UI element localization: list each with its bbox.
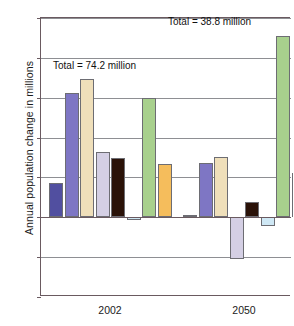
- y-tick-mark: [37, 98, 41, 99]
- total-label-2050: Total = 38.8 million: [168, 16, 251, 27]
- gridline: [41, 18, 291, 19]
- bar-2002-series-7: [142, 98, 156, 218]
- y-axis-title: Annual population change in millions: [23, 23, 35, 273]
- gridline: [41, 58, 291, 59]
- gridline: [41, 257, 291, 258]
- bar-2002-series-8: [158, 164, 172, 217]
- total-label-2002: Total = 74.2 million: [53, 60, 136, 71]
- bar-2002-series-2: [65, 93, 79, 217]
- bar-2050-series-5: [245, 202, 259, 217]
- y-tick-mark: [37, 138, 41, 139]
- bar-2002-series-1: [49, 183, 63, 217]
- y-tick-mark: [37, 177, 41, 178]
- gridline: [41, 98, 291, 99]
- y-tick-mark: [37, 58, 41, 59]
- bar-2050-series-7: [276, 36, 290, 217]
- bar-2050-series-6: [261, 217, 275, 226]
- gridline: [41, 138, 291, 139]
- y-tick-mark: [37, 257, 41, 258]
- bar-2050-series-2: [199, 163, 213, 217]
- x-tick-label-2050: 2050: [214, 304, 274, 316]
- bar-chart: Annual population change in millions 252…: [0, 0, 293, 326]
- bar-2050-series-3: [214, 157, 228, 218]
- bar-2002-series-4: [96, 152, 110, 217]
- bar-2050-series-8: [292, 173, 294, 218]
- bar-2050-series-4: [230, 217, 244, 258]
- plot-area: 2520151050-5-10: [40, 17, 290, 296]
- bar-2002-series-5: [111, 158, 125, 218]
- y-tick-mark: [37, 18, 41, 19]
- zero-line: [41, 217, 291, 218]
- bar-2002-series-3: [80, 79, 94, 217]
- x-tick-label-2002: 2002: [80, 304, 140, 316]
- y-tick-mark: [37, 297, 41, 298]
